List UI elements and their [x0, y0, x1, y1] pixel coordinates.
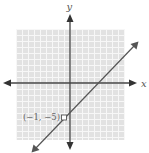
x-axis-label: x	[141, 78, 147, 89]
point-marker	[62, 115, 67, 120]
coordinate-plane: x y (−1, −5)	[0, 0, 149, 153]
y-axis-down-arrow-icon	[67, 142, 74, 150]
point-label: (−1, −5)	[23, 112, 60, 122]
x-axis-left-arrow-icon	[3, 80, 11, 87]
y-axis-up-arrow-icon	[67, 14, 74, 22]
y-axis-label: y	[66, 1, 73, 12]
x-axis-right-arrow-icon	[129, 80, 137, 87]
